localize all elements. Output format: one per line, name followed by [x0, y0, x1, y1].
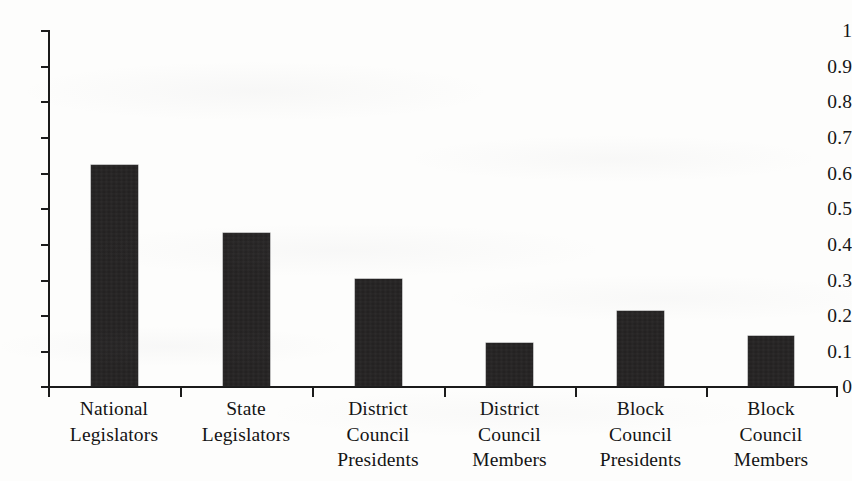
chart-page: 1 0.9 0.8 0.7 0.6 0.5 0.4 0.3 0.2 0.1 0 … — [0, 0, 852, 481]
y-tick-label-0.3: 0.3 — [806, 271, 852, 291]
y-tick-label-0.8: 0.8 — [806, 92, 852, 112]
y-tick-label-0.1: 0.1 — [806, 342, 852, 362]
x-label-block-council-members: Block Council Members — [706, 396, 836, 473]
bar-state-legislators — [223, 233, 270, 386]
y-tick-0 — [41, 386, 48, 388]
y-tick-0.2 — [41, 315, 48, 317]
y-tick-0.9 — [41, 66, 48, 68]
y-tick-0.6 — [41, 173, 48, 175]
bar-district-council-members — [486, 343, 533, 386]
x-label-national-legislators: National Legislators — [48, 396, 180, 447]
x-label-district-council-presidents: District Council Presidents — [312, 396, 444, 473]
y-tick-0.4 — [41, 244, 48, 246]
y-tick-label-0.5: 0.5 — [806, 199, 852, 219]
bar-national-legislators — [91, 165, 138, 386]
y-tick-label-0.2: 0.2 — [806, 306, 852, 326]
y-tick-0.5 — [41, 208, 48, 210]
y-tick-label-0: 0 — [806, 377, 852, 397]
bar-district-council-presidents — [355, 279, 402, 386]
bar-block-council-members — [748, 336, 794, 386]
x-label-block-council-presidents: Block Council Presidents — [575, 396, 706, 473]
x-label-district-council-members: District Council Members — [444, 396, 575, 473]
y-tick-label-0.7: 0.7 — [806, 128, 852, 148]
x-axis-line — [48, 386, 838, 388]
y-tick-label-0.9: 0.9 — [806, 57, 852, 77]
y-tick-0.8 — [41, 101, 48, 103]
y-tick-1.0 — [41, 30, 48, 32]
y-tick-label-1.0: 1 — [806, 21, 852, 41]
y-tick-0.3 — [41, 280, 48, 282]
bar-chart: 1 0.9 0.8 0.7 0.6 0.5 0.4 0.3 0.2 0.1 0 … — [0, 0, 852, 481]
bar-block-council-presidents — [617, 311, 664, 386]
y-tick-label-0.4: 0.4 — [806, 235, 852, 255]
x-label-state-legislators: State Legislators — [180, 396, 312, 447]
x-tick-6 — [836, 388, 838, 397]
y-tick-0.1 — [41, 351, 48, 353]
y-tick-0.7 — [41, 137, 48, 139]
y-tick-label-0.6: 0.6 — [806, 164, 852, 184]
y-axis-line — [48, 30, 50, 388]
